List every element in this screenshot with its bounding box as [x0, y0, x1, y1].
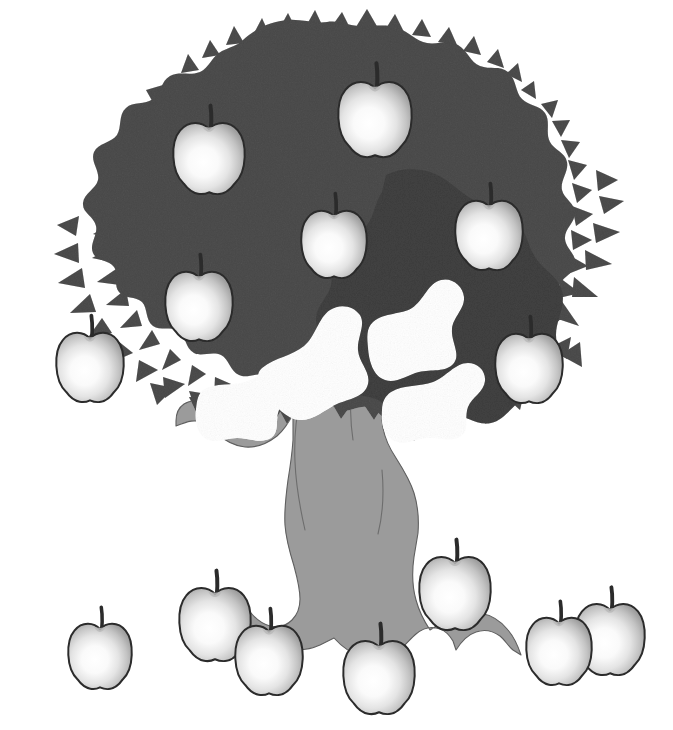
- apple-body: [338, 82, 411, 157]
- apple-body: [165, 272, 232, 341]
- apple-tree-illustration: Apple on tree upper leftApple on tree to…: [0, 0, 673, 730]
- apple-body: [455, 201, 522, 270]
- apple-body: [301, 211, 366, 278]
- apple-body: [343, 641, 414, 714]
- apple-body: [526, 618, 591, 685]
- illustration-canvas: Apple tree with apples on tree and on th…: [0, 0, 673, 730]
- apple-body: [68, 624, 132, 689]
- apple-body: [419, 557, 490, 630]
- apple-body: [235, 626, 302, 695]
- apple-body: [56, 333, 123, 402]
- apple-body: [173, 123, 244, 194]
- apple-body: [495, 334, 562, 403]
